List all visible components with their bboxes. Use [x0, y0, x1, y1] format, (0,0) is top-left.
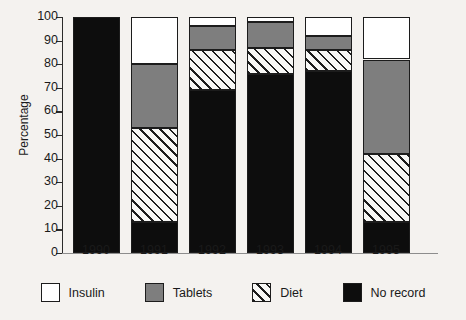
x-tick-label-1994: 1994: [295, 243, 362, 257]
y-tick-label: 100: [37, 9, 58, 23]
y-tick-label: 90: [44, 33, 58, 47]
bar-segment-tablets: [247, 22, 294, 48]
bar-segment-tablets: [131, 64, 178, 128]
y-axis-title: Percentage: [17, 55, 31, 195]
bar-1991: [131, 17, 178, 253]
stacked-bar-chart: Percentage 0102030405060708090100 199019…: [0, 0, 466, 320]
legend-swatch-diet: [252, 283, 271, 302]
legend-swatch-tablets: [145, 283, 164, 302]
legend-label-norecord: No record: [371, 286, 426, 300]
plot-area: 0102030405060708090100: [62, 17, 410, 253]
bar-segment-insulin: [247, 17, 294, 22]
bar-segment-norecord: [73, 17, 120, 253]
legend-label-insulin: Insulin: [69, 286, 105, 300]
y-tick-label: 50: [44, 127, 58, 141]
bar-segment-diet: [305, 50, 352, 71]
legend-label-diet: Diet: [280, 286, 302, 300]
bar-1995: [363, 17, 410, 253]
bar-segment-norecord: [305, 71, 352, 253]
y-tick-label: 30: [44, 174, 58, 188]
y-tick-label: 60: [44, 103, 58, 117]
bar-segment-insulin: [189, 17, 236, 26]
bar-1990: [73, 17, 120, 253]
bar-1992: [189, 17, 236, 253]
bar-segment-norecord: [247, 74, 294, 253]
y-axis-line: [62, 17, 63, 253]
legend-item-insulin[interactable]: Insulin: [41, 283, 105, 302]
bar-segment-insulin: [363, 17, 410, 59]
y-tick-label: 80: [44, 56, 58, 70]
y-tick-label: 40: [44, 151, 58, 165]
legend-item-norecord[interactable]: No record: [343, 283, 426, 302]
y-tick-label: 10: [44, 221, 58, 235]
bar-segment-tablets: [189, 26, 236, 50]
x-tick-label-1990: 1990: [63, 243, 130, 257]
y-tick-label: 70: [44, 80, 58, 94]
x-tick-label-1993: 1993: [237, 243, 304, 257]
bar-segment-diet: [247, 48, 294, 74]
bar-segment-norecord: [189, 90, 236, 253]
y-tick-label: 0: [51, 245, 58, 259]
bar-segment-insulin: [305, 17, 352, 36]
bar-1993: [247, 17, 294, 253]
x-tick-label-1991: 1991: [121, 243, 188, 257]
chart-legend: InsulinTabletsDietNo record: [0, 283, 466, 302]
legend-swatch-insulin: [41, 283, 60, 302]
y-tick-label: 20: [44, 198, 58, 212]
bar-segment-tablets: [305, 36, 352, 50]
bar-segment-tablets: [363, 60, 410, 154]
bar-segment-diet: [363, 154, 410, 222]
legend-item-diet[interactable]: Diet: [252, 283, 302, 302]
legend-swatch-norecord: [343, 283, 362, 302]
x-tick-label-1992: 1992: [179, 243, 246, 257]
bar-1994: [305, 17, 352, 253]
bar-segment-diet: [131, 128, 178, 222]
x-tick-label-1995: 1995: [353, 243, 420, 257]
legend-item-tablets[interactable]: Tablets: [145, 283, 213, 302]
legend-label-tablets: Tablets: [173, 286, 213, 300]
bar-segment-diet: [189, 50, 236, 90]
bar-segment-insulin: [131, 17, 178, 64]
